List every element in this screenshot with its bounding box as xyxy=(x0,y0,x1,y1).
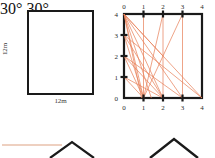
x-tick-label-top: 4 xyxy=(200,3,204,11)
grid-plot-svg: 001122334401234 xyxy=(110,0,215,120)
y-tick-label-left: 1 xyxy=(115,74,119,82)
x-tick-label-top: 1 xyxy=(142,3,146,11)
x-tick-label-top: 2 xyxy=(161,3,165,11)
y-tick-label-left: 4 xyxy=(115,11,119,19)
x-tick-label-bottom: 3 xyxy=(181,104,185,112)
square-bottom-side-label: 12m xyxy=(27,97,94,105)
x-tick-label-bottom: 2 xyxy=(161,104,165,112)
y-tick-label-left: 3 xyxy=(115,32,119,40)
x-tick-label-top: 0 xyxy=(122,3,126,11)
x-tick-label-bottom: 4 xyxy=(200,104,204,112)
x-tick-label-top: 3 xyxy=(181,3,185,11)
roof-angles-svg xyxy=(0,124,120,158)
y-tick-label-left: 0 xyxy=(115,95,119,103)
figure-roof-outline xyxy=(130,128,215,158)
figure-coordinate-grid: 001122334401234 xyxy=(110,0,215,120)
square-left-side-label: 12m xyxy=(1,34,9,64)
square-outline xyxy=(27,10,94,95)
roof-plain-svg xyxy=(130,128,215,158)
y-tick-label-left: 2 xyxy=(115,53,119,61)
figure-roof-angles xyxy=(0,124,120,158)
x-tick-label-bottom: 1 xyxy=(142,104,146,112)
roof-plain-outline xyxy=(150,139,198,158)
figure-labelled-square: 12m 12m xyxy=(0,0,110,120)
x-tick-label-bottom: 0 xyxy=(122,104,126,112)
